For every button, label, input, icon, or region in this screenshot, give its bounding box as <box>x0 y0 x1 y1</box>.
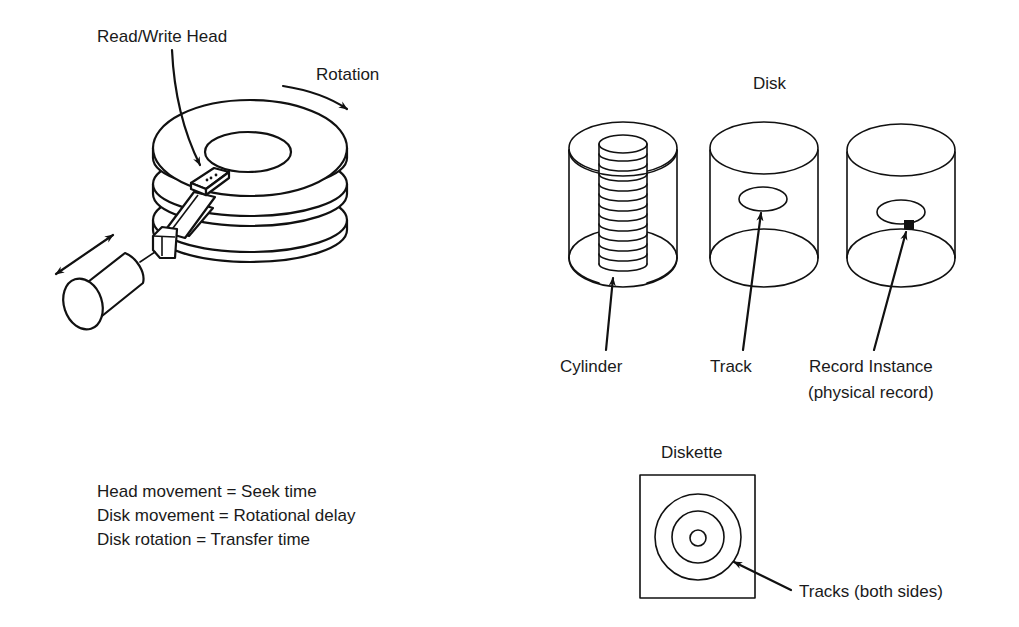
disk-storage-diagram: Read/Write Head Rotation <box>0 0 1019 627</box>
diskette-hub <box>690 530 706 546</box>
record-pointer-arrow <box>874 232 906 350</box>
tracks-label: Tracks (both sides) <box>799 582 943 601</box>
disk-concepts: Disk <box>560 74 955 402</box>
legend-seek-time: Head movement = Seek time <box>97 482 317 501</box>
tracks-pointer-arrow <box>734 562 791 590</box>
record-track-ring <box>877 200 925 224</box>
head-carriage <box>153 227 177 258</box>
legend-rotational-delay: Disk movement = Rotational delay <box>97 506 356 525</box>
diskette-title: Diskette <box>661 443 722 462</box>
record-instance-label: Record Instance <box>809 357 933 376</box>
track-ring <box>739 187 787 211</box>
track-pointer-arrow <box>743 213 761 350</box>
physical-record-block <box>904 220 914 229</box>
cylinder-label: Cylinder <box>560 357 623 376</box>
diskette-outer-track <box>655 494 741 580</box>
rotation-label: Rotation <box>316 65 379 84</box>
legend-transfer-time: Disk rotation = Transfer time <box>97 530 310 549</box>
diskette-illustration: Diskette Tracks (both sides) <box>640 443 943 601</box>
read-write-head-label: Read/Write Head <box>97 27 227 46</box>
disk-title: Disk <box>753 74 787 93</box>
record-instance-illustration <box>847 124 955 287</box>
timing-legend: Head movement = Seek time Disk movement … <box>97 482 356 549</box>
diskette-inner-track <box>672 511 724 563</box>
cylinder-illustration <box>569 122 677 287</box>
track-illustration <box>710 122 818 287</box>
disk-drive-illustration: Read/Write Head Rotation <box>56 27 379 335</box>
cylinder-pointer-arrow <box>606 278 613 350</box>
spindle-hole <box>205 132 291 172</box>
record-instance-sublabel: (physical record) <box>808 383 934 402</box>
track-label: Track <box>710 357 752 376</box>
